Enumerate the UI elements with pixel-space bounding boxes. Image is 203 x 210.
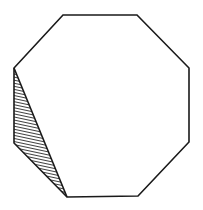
- diagram-canvas: [0, 0, 203, 210]
- octagon-diagram: [0, 0, 203, 210]
- octagon-outline: [14, 15, 189, 197]
